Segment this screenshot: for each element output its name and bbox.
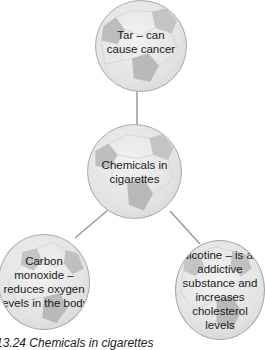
node-tar: Tar – can cause cancer (95, 0, 187, 92)
node-tar-label: Tar – can cause cancer (101, 28, 181, 56)
node-nicotine-label: Nicotine – is an addictive substance and… (176, 248, 264, 332)
node-center: Chemicals in cigarettes (87, 124, 182, 219)
figure-caption: 13.24 Chemicals in cigarettes (0, 336, 153, 350)
node-carbon-monoxide: Carbon monoxide – reduces oxygen levels … (0, 234, 90, 330)
node-center-label: Chemicals in cigarettes (97, 158, 172, 186)
node-carbon-monoxide-label: Carbon monoxide – reduces oxygen levels … (0, 254, 89, 310)
node-nicotine: Nicotine – is an addictive substance and… (175, 240, 265, 340)
